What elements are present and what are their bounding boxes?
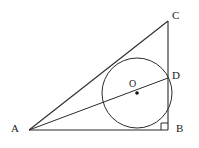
segment-ac: [29, 21, 168, 130]
vertex-label-c: C: [172, 10, 179, 21]
vertex-label-a: A: [11, 123, 19, 134]
segment-ad: [29, 78, 168, 130]
center-point-o: [135, 91, 139, 95]
geometry-canvas: [0, 0, 199, 148]
geometry-figure: A B C D O: [0, 0, 199, 148]
vertex-label-d: D: [172, 70, 180, 81]
vertex-label-b: B: [176, 123, 183, 134]
center-label-o: O: [129, 79, 136, 89]
right-angle-marker: [161, 123, 168, 130]
